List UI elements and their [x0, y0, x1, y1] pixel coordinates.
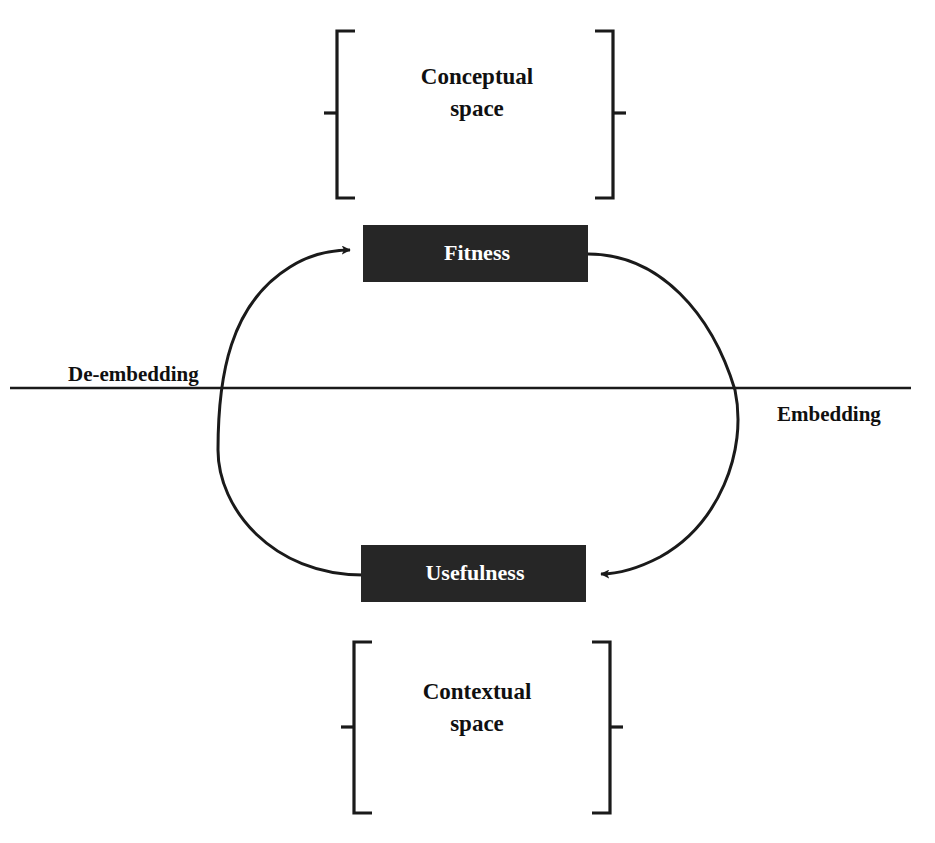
bracket-conceptual-label-line1: Conceptual: [421, 64, 533, 89]
bracket-conceptual-right: [595, 31, 613, 198]
node-fitness[interactable]: Fitness: [363, 225, 588, 282]
arrow-fitness-to-usefulness: [588, 254, 738, 574]
bracket-contextual-left: [354, 642, 372, 813]
node-usefulness[interactable]: Usefulness: [361, 545, 586, 602]
bracket-contextual-right: [592, 642, 610, 813]
axis-label-de-embedding: De-embedding: [68, 362, 199, 386]
node-usefulness-label: Usefulness: [425, 560, 524, 585]
bracket-conceptual-label-line2: space: [450, 96, 504, 121]
axis-label-embedding: Embedding: [777, 402, 881, 426]
bracket-contextual: Contextual space: [341, 642, 623, 813]
bracket-contextual-label-line2: space: [450, 711, 504, 736]
bracket-conceptual: Conceptual space: [324, 31, 626, 198]
arrow-usefulness-to-fitness: [218, 250, 363, 575]
bracket-conceptual-left: [337, 31, 355, 198]
bracket-contextual-label-line1: Contextual: [423, 679, 532, 704]
diagram-canvas: Conceptual space De-embedding Embedding …: [0, 0, 935, 843]
node-fitness-label: Fitness: [444, 240, 510, 265]
diagram-svg: Conceptual space De-embedding Embedding …: [0, 0, 935, 843]
